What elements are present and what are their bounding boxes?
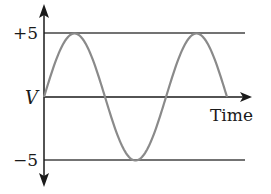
minus-five-label: −5 bbox=[13, 150, 38, 170]
sine-wave-diagram: +5 −5 V Time bbox=[0, 0, 271, 194]
plus-five-label: +5 bbox=[13, 23, 38, 43]
x-axis-label: Time bbox=[210, 105, 253, 125]
y-axis-label: V bbox=[25, 87, 40, 108]
